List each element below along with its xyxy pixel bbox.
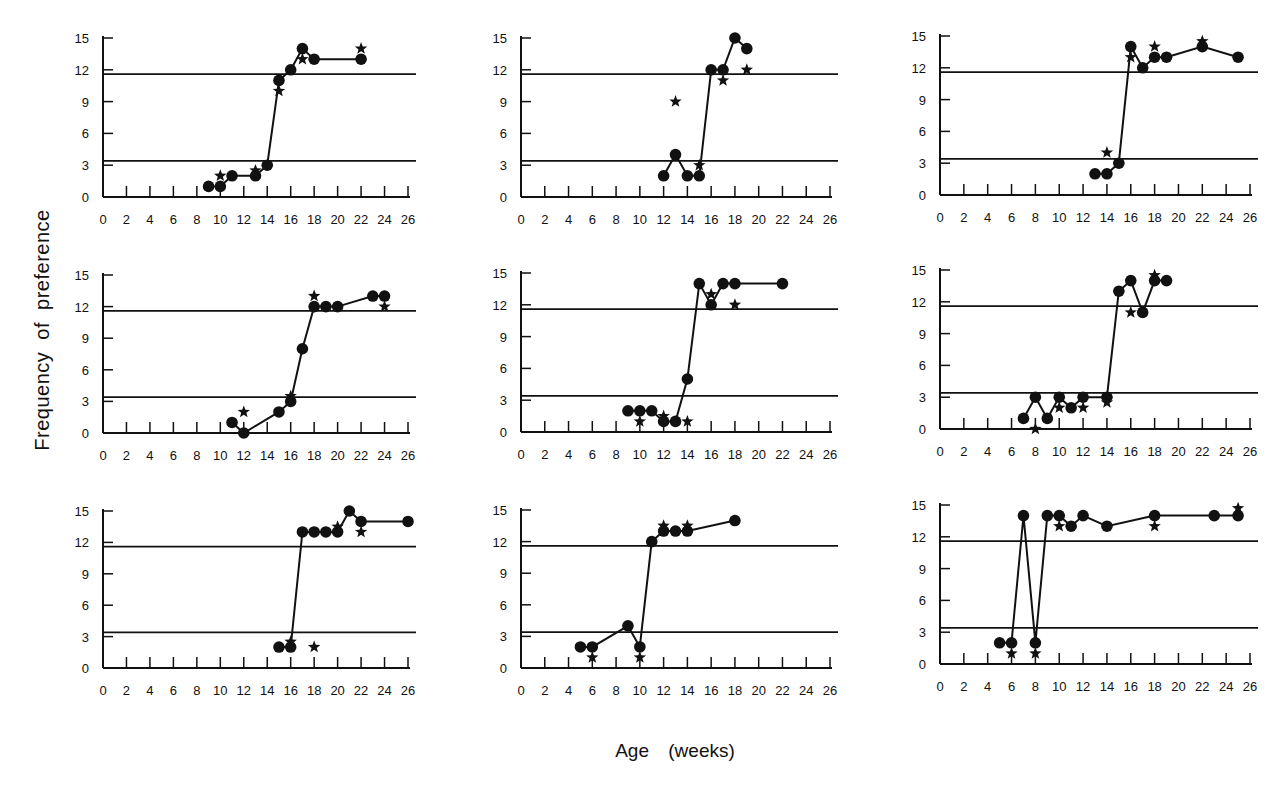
x-tick-label: 6 [170,448,177,463]
circle-marker [717,64,729,76]
y-tick-label: 9 [82,331,89,346]
circle-marker [1149,51,1161,63]
circle-marker [1030,391,1042,403]
x-tick-label: 20 [1171,210,1185,225]
x-tick-label: 4 [565,447,572,462]
y-tick-label: 0 [919,422,926,437]
circle-marker [344,505,356,517]
panel-5: 0369121502468101214161820222426 [493,266,838,462]
circle-marker [285,64,297,76]
y-tick-label: 0 [82,190,89,205]
circle-marker [1197,41,1209,53]
circle-marker [729,278,741,290]
x-tick-label: 10 [633,683,647,698]
x-tick-label: 4 [146,683,153,698]
x-tick-label: 14 [680,683,694,698]
star-marker [717,74,729,86]
star-marker [1148,520,1160,532]
circle-marker [285,641,297,653]
x-tick-label: 16 [1124,679,1138,694]
y-axis-label: Frequency of preference [22,200,62,460]
circle-marker [1113,285,1125,297]
x-tick-label: 10 [1052,210,1066,225]
series-line [1024,281,1167,419]
circle-marker [261,159,273,171]
panel-3: 0369121502468101214161820222426 [912,29,1258,225]
series-line [209,49,362,187]
x-tick-label: 10 [633,212,647,227]
x-tick-label: 24 [799,683,813,698]
y-tick-label: 12 [493,63,507,78]
circle-marker [297,343,309,355]
circle-marker [1101,168,1113,180]
star-marker [308,290,320,302]
x-tick-label: 22 [1195,210,1209,225]
x-tick-label: 16 [1124,210,1138,225]
circle-marker [203,181,215,193]
x-tick-label: 2 [960,444,967,459]
circle-marker [1065,402,1077,414]
circle-marker [693,278,705,290]
circle-marker [226,417,238,429]
circle-marker [332,526,344,538]
x-tick-label: 26 [401,448,415,463]
y-tick-label: 9 [500,95,507,110]
circle-marker [1232,51,1244,63]
x-tick-label: 10 [213,683,227,698]
circle-marker [634,641,646,653]
y-tick-label: 9 [500,330,507,345]
x-tick-label: 4 [984,679,991,694]
circle-marker [682,170,694,182]
y-tick-label: 0 [82,661,89,676]
circle-marker [332,301,344,313]
circle-marker [226,170,238,182]
x-tick-label: 6 [589,447,596,462]
y-tick-label: 15 [912,29,926,44]
x-tick-label: 10 [1052,444,1066,459]
panel-4: 0369121502468101214161820222426 [75,268,416,463]
x-tick-label: 0 [936,679,943,694]
x-tick-label: 26 [823,212,837,227]
x-tick-label: 0 [517,212,524,227]
y-tick-label: 3 [500,158,507,173]
panel-8: 0369121502468101214161820222426 [493,503,838,698]
x-tick-label: 14 [1100,444,1114,459]
circle-marker [1006,637,1018,649]
x-tick-label: 10 [633,447,647,462]
series-line [580,521,735,647]
circle-marker [705,64,717,76]
x-tick-label: 18 [728,447,742,462]
x-tick-label: 24 [1219,679,1233,694]
x-tick-label: 14 [680,212,694,227]
circle-marker [1042,413,1054,425]
x-tick-label: 8 [1032,210,1039,225]
x-tick-label: 16 [704,683,718,698]
circle-marker [1101,391,1113,403]
circle-marker [1018,510,1030,522]
circle-marker [1149,275,1161,287]
x-tick-label: 18 [307,448,321,463]
circle-marker [1077,391,1089,403]
circle-marker [1113,157,1125,169]
circle-marker [402,516,414,528]
y-tick-label: 12 [912,295,926,310]
x-tick-label: 22 [775,212,789,227]
circle-marker [658,525,670,537]
x-tick-label: 2 [960,679,967,694]
circle-marker [658,170,670,182]
y-tick-label: 0 [500,661,507,676]
figure-canvas: 0369121502468101214161820222426036912150… [0,0,1283,786]
y-tick-label: 0 [82,426,89,441]
x-tick-label: 12 [1076,444,1090,459]
x-tick-label: 24 [1219,210,1233,225]
x-tick-label: 8 [612,683,619,698]
circle-marker [622,405,634,417]
y-tick-label: 15 [912,498,926,513]
circle-marker [646,536,658,548]
circle-marker [622,620,634,632]
star-marker [308,641,320,653]
x-tick-label: 2 [123,683,130,698]
panel-7: 0369121502468101214161820222426 [75,504,416,698]
x-tick-label: 22 [1195,444,1209,459]
y-tick-label: 6 [82,126,89,141]
